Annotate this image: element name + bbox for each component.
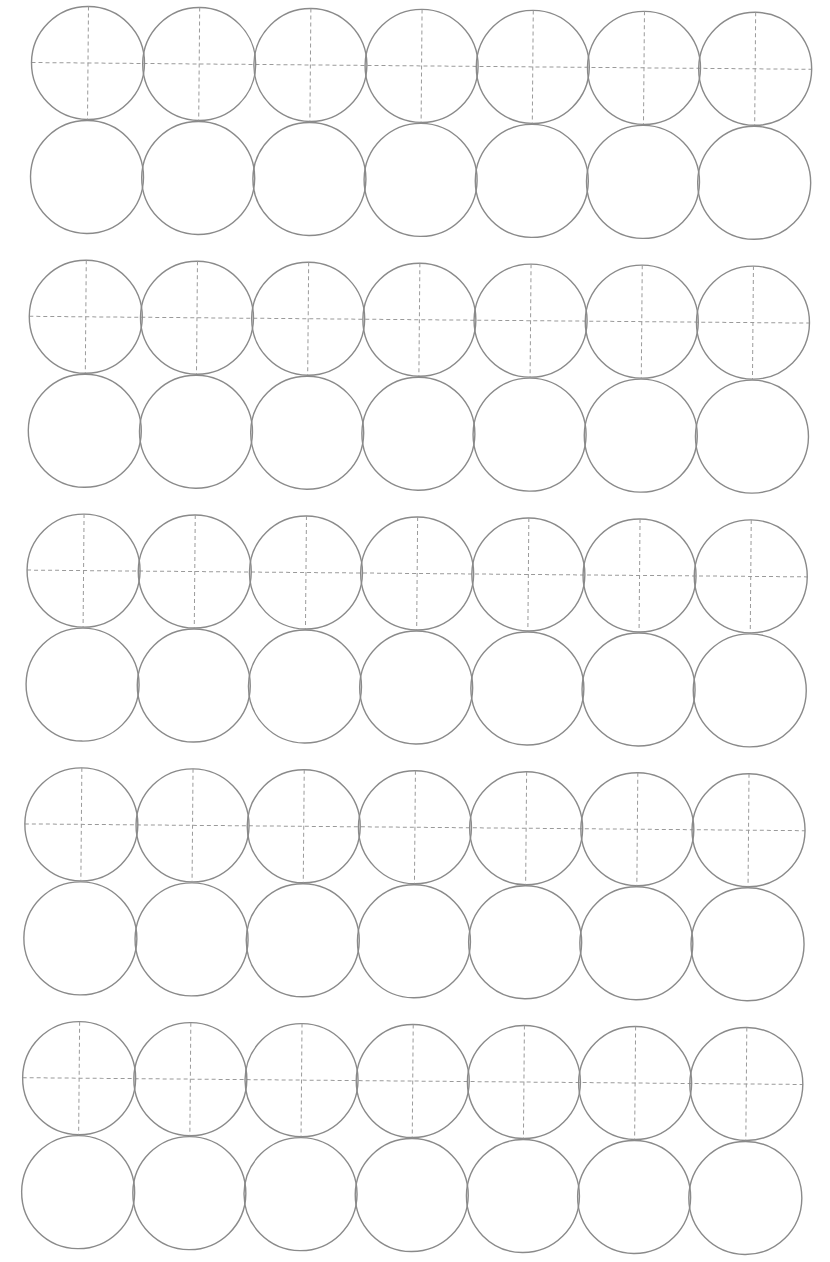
vertical-guide-line	[752, 266, 753, 379]
plain-circle	[468, 885, 582, 999]
plain-circle	[252, 122, 366, 236]
plain-circle	[688, 1141, 802, 1255]
vertical-guide-line	[755, 12, 756, 125]
plain-circle	[244, 1137, 358, 1251]
plain-circle	[250, 376, 364, 490]
plain-circle	[135, 882, 249, 996]
circle-group	[30, 6, 812, 240]
plain-circle	[582, 632, 696, 746]
vertical-guide-line	[750, 520, 751, 633]
vertical-guide-line	[746, 1027, 747, 1140]
plain-circle	[248, 630, 362, 744]
plain-circle	[357, 884, 471, 998]
circle-template-sheet	[0, 0, 830, 1262]
vertical-guide-line	[532, 10, 533, 123]
plain-circle	[695, 380, 809, 494]
vertical-guide-line	[303, 770, 304, 883]
vertical-guide-line	[641, 265, 642, 378]
plain-circle	[586, 125, 700, 239]
vertical-guide-line	[748, 774, 749, 887]
vertical-guide-line	[83, 514, 84, 627]
vertical-guide-line	[523, 1026, 524, 1139]
vertical-guide-line	[421, 9, 422, 122]
circle-group	[28, 260, 810, 494]
plain-circle	[141, 121, 255, 235]
vertical-guide-line	[639, 519, 640, 632]
vertical-guide-line	[81, 768, 82, 881]
plain-circle	[364, 123, 478, 237]
plain-circle	[355, 1138, 469, 1252]
plain-circle	[30, 120, 144, 234]
vertical-guide-line	[310, 8, 311, 121]
vertical-guide-line	[192, 769, 193, 882]
vertical-guide-line	[526, 772, 527, 885]
vertical-guide-line	[528, 518, 529, 631]
vertical-guide-line	[194, 515, 195, 628]
plain-circle	[23, 881, 137, 995]
plain-circle	[693, 633, 807, 747]
plain-circle	[28, 374, 142, 488]
plain-circle	[361, 377, 475, 491]
plain-circle	[475, 124, 589, 238]
circle-group	[21, 1021, 803, 1255]
vertical-guide-line	[79, 1022, 80, 1135]
plain-circle	[579, 886, 693, 1000]
vertical-guide-line	[305, 516, 306, 629]
plain-circle	[359, 630, 473, 744]
vertical-guide-line	[85, 260, 86, 373]
vertical-guide-line	[190, 1023, 191, 1136]
plain-circle	[470, 631, 584, 745]
vertical-guide-line	[417, 517, 418, 630]
vertical-guide-line	[199, 7, 200, 120]
vertical-guide-line	[635, 1027, 636, 1140]
vertical-guide-line	[637, 773, 638, 886]
vertical-guide-line	[412, 1025, 413, 1138]
vertical-guide-line	[196, 261, 197, 374]
plain-circle	[466, 1139, 580, 1253]
circle-group	[23, 767, 805, 1001]
circle-group	[26, 514, 808, 748]
plain-circle	[691, 887, 805, 1001]
vertical-guide-line	[88, 7, 89, 120]
vertical-guide-line	[414, 771, 415, 884]
plain-circle	[577, 1140, 691, 1254]
plain-circle	[473, 378, 587, 492]
plain-circle	[584, 379, 698, 493]
vertical-guide-line	[308, 262, 309, 375]
vertical-guide-line	[419, 263, 420, 376]
plain-circle	[132, 1136, 246, 1250]
plain-circle	[697, 126, 811, 240]
plain-circle	[137, 629, 251, 743]
vertical-guide-line	[301, 1024, 302, 1137]
plain-circle	[26, 628, 140, 742]
plain-circle	[246, 883, 360, 997]
vertical-guide-line	[643, 11, 644, 124]
circle-grid	[21, 6, 812, 1255]
plain-circle	[139, 375, 253, 489]
plain-circle	[21, 1135, 135, 1249]
vertical-guide-line	[530, 264, 531, 377]
